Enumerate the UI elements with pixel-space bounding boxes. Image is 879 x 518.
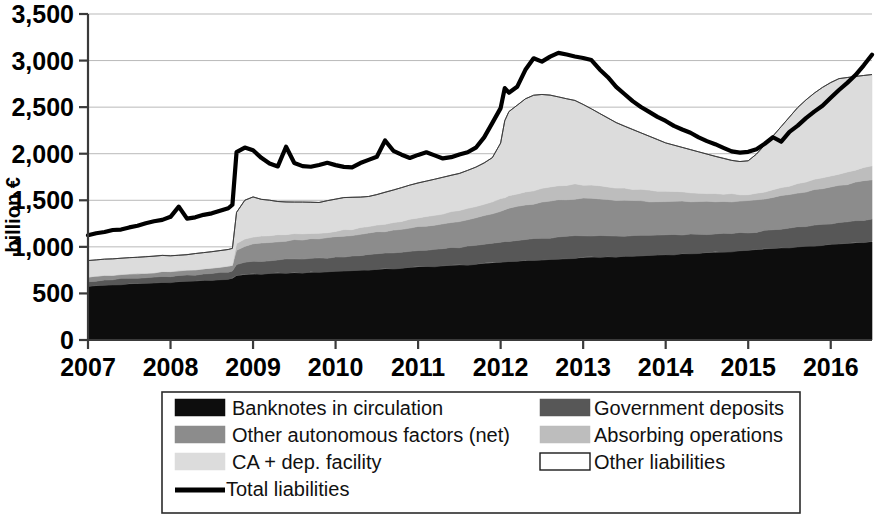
liabilities-stacked-area-chart: 05001,0001,5002,0002,5003,0003,500 20072… xyxy=(0,0,879,518)
y-tick-label: 0 xyxy=(60,326,74,354)
legend-swatch-government-deposits xyxy=(540,399,590,416)
x-tick-label: 2007 xyxy=(60,353,116,381)
y-tick-label: 2,000 xyxy=(11,140,74,168)
x-tick-label: 2016 xyxy=(803,353,859,381)
y-axis-title: billion € xyxy=(2,177,24,253)
y-tick-label: 3,000 xyxy=(11,47,74,75)
x-tick-label: 2014 xyxy=(638,353,694,381)
legend-swatch-other-liabilities xyxy=(540,453,590,470)
chart-legend: Banknotes in circulationGovernment depos… xyxy=(162,392,800,513)
x-axis-tick-labels: 2007200820092010201120122013201420152016 xyxy=(60,340,858,381)
legend-swatch-absorbing-operations xyxy=(540,426,590,443)
x-tick-label: 2011 xyxy=(391,353,445,381)
legend-swatch-other-autonomous-factors-net xyxy=(175,426,225,443)
y-axis-title-text: billion € xyxy=(2,177,24,253)
x-tick-label: 2013 xyxy=(555,353,611,381)
y-tick-label: 2,500 xyxy=(11,93,74,121)
legend-label-banknotes-in-circulation: Banknotes in circulation xyxy=(232,397,443,419)
x-tick-label: 2015 xyxy=(720,353,776,381)
legend-label-other-autonomous-factors-net: Other autonomous factors (net) xyxy=(232,424,510,446)
legend-label-absorbing-operations: Absorbing operations xyxy=(594,424,783,446)
legend-label-other-liabilities: Other liabilities xyxy=(594,451,725,473)
legend-swatch-ca-dep-facility xyxy=(175,453,225,470)
x-tick-label: 2012 xyxy=(473,353,529,381)
legend-label-ca-dep-facility: CA + dep. facility xyxy=(232,451,382,473)
x-tick-label: 2009 xyxy=(225,353,281,381)
legend-swatch-banknotes-in-circulation xyxy=(175,399,225,416)
x-tick-label: 2008 xyxy=(143,353,199,381)
y-axis-tick-labels: 05001,0001,5002,0002,5003,0003,500 xyxy=(11,0,88,354)
x-tick-label: 2010 xyxy=(308,353,364,381)
y-tick-label: 3,500 xyxy=(11,0,74,28)
legend-label-total-liabilities: Total liabilities xyxy=(226,478,349,500)
legend-label-government-deposits: Government deposits xyxy=(594,397,784,419)
y-tick-label: 500 xyxy=(32,279,74,307)
chart-figure: 05001,0001,5002,0002,5003,0003,500 20072… xyxy=(0,0,879,518)
